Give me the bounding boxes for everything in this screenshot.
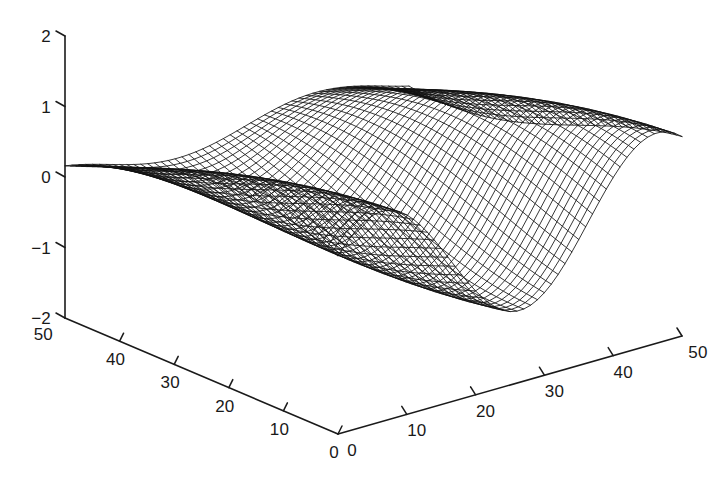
x-axis-tick: [539, 367, 544, 375]
y-axis-tick: [229, 380, 233, 388]
y-axis-tick: [174, 356, 178, 364]
x-tick-label: 30: [545, 382, 564, 401]
z-tick-label: 2: [41, 27, 51, 46]
z-axis-tick: [56, 243, 65, 248]
mesh-gridline: [163, 91, 507, 230]
mesh-gridline: [333, 129, 677, 310]
x-tick-label: 50: [688, 343, 707, 362]
z-axis-tick: [56, 172, 65, 177]
surface-plot-3d: −2−10120102030405001020304050: [0, 0, 727, 478]
z-tick-label: 0: [41, 168, 51, 187]
y-tick-label: 0: [329, 443, 339, 462]
y-axis-tick: [120, 333, 124, 341]
surface-mesh: [65, 86, 682, 312]
mesh-gridline: [300, 117, 644, 299]
z-tick-label: 1: [41, 98, 51, 117]
x-tick-label: 0: [347, 441, 357, 460]
y-axis-line: [65, 318, 338, 434]
x-axis-line: [338, 336, 682, 434]
y-tick-label: 50: [34, 325, 53, 344]
mesh-gridline: [316, 123, 660, 305]
y-tick-label: 20: [215, 397, 234, 416]
mesh-gridline: [265, 115, 538, 300]
x-tick-label: 10: [407, 421, 426, 440]
mesh-gridline: [230, 135, 503, 311]
y-tick-label: 10: [270, 420, 289, 439]
z-axis-tick: [56, 31, 65, 36]
x-axis-tick: [608, 348, 613, 356]
z-tick-label: −1: [31, 239, 51, 258]
x-axis-tick: [402, 406, 407, 414]
y-axis-tick: [283, 403, 287, 411]
figure-canvas: −2−10120102030405001020304050: [0, 0, 727, 478]
axis-tick-labels: −2−10120102030405001020304050: [31, 27, 707, 462]
y-tick-label: 40: [106, 350, 125, 369]
x-tick-label: 20: [476, 402, 495, 421]
z-axis-tick: [56, 313, 65, 318]
x-axis-tick: [471, 387, 476, 395]
y-tick-label: 30: [161, 373, 180, 392]
x-axis-tick: [677, 328, 682, 336]
z-axis-tick: [56, 102, 65, 107]
x-tick-label: 40: [614, 363, 633, 382]
